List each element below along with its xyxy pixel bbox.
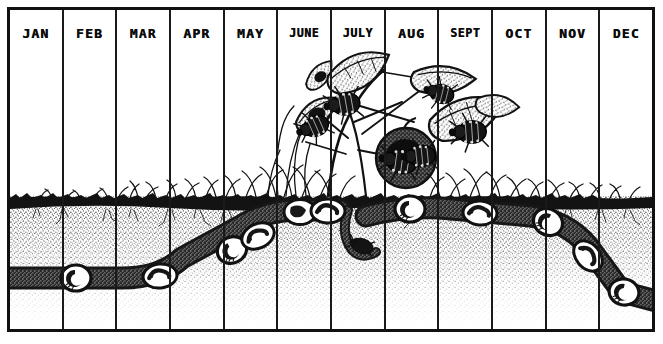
month-label-jan: JAN — [10, 26, 62, 41]
month-column-nov[interactable]: NOV — [547, 10, 601, 329]
month-column-sept[interactable]: SEPT — [439, 10, 493, 329]
month-label-feb: FEB — [64, 26, 116, 41]
month-column-feb[interactable]: FEB — [64, 10, 118, 329]
month-column-jan[interactable]: JAN — [10, 10, 64, 329]
month-column-apr[interactable]: APR — [171, 10, 225, 329]
month-label-june: JUNE — [278, 26, 330, 40]
month-column-dec[interactable]: DEC — [600, 10, 652, 329]
month-column-aug[interactable]: AUG — [386, 10, 440, 329]
month-label-aug: AUG — [386, 26, 438, 41]
month-column-mar[interactable]: MAR — [117, 10, 171, 329]
life-cycle-chart-frame: JAN FEB MAR APR MAY JUNE JULY AUG — [7, 7, 655, 332]
month-column-oct[interactable]: OCT — [493, 10, 547, 329]
month-label-apr: APR — [171, 26, 223, 41]
month-column-june[interactable]: JUNE — [278, 10, 332, 329]
month-label-may: MAY — [225, 26, 277, 41]
month-grid: JAN FEB MAR APR MAY JUNE JULY AUG — [10, 10, 652, 329]
month-label-dec: DEC — [600, 26, 652, 41]
month-label-mar: MAR — [117, 26, 169, 41]
month-label-oct: OCT — [493, 26, 545, 41]
month-label-sept: SEPT — [439, 26, 491, 40]
month-label-july: JULY — [332, 26, 384, 40]
month-label-nov: NOV — [547, 26, 599, 41]
month-column-july[interactable]: JULY — [332, 10, 386, 329]
month-column-may[interactable]: MAY — [225, 10, 279, 329]
chart-canvas: JAN FEB MAR APR MAY JUNE JULY AUG — [10, 10, 652, 329]
